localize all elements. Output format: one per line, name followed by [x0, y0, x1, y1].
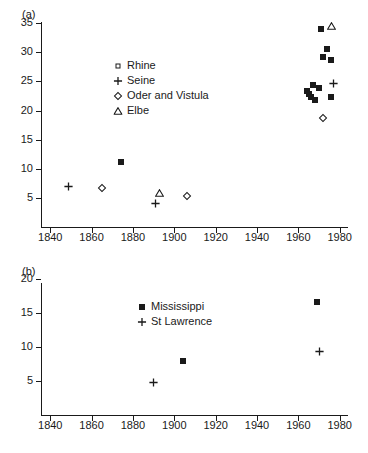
data-point-rhine [310, 82, 316, 88]
plus-marker-legend [114, 76, 123, 85]
x-axis-line [41, 415, 348, 416]
data-point-oder-and-vistula [319, 114, 327, 122]
plus-icon [136, 314, 148, 329]
legend-label: St Lawrence [151, 314, 212, 329]
data-point-rhine [318, 26, 324, 32]
y-tick-label: 15 [2, 133, 33, 145]
data-point-rhine [312, 97, 318, 103]
legend-label: Rhine [127, 58, 156, 73]
x-axis-line [41, 227, 348, 228]
open-diamond-marker-legend [114, 91, 122, 99]
open-diamond-icon [112, 88, 124, 103]
legend-label: Elbe [127, 103, 149, 118]
data-point-seine [64, 182, 73, 191]
filled-square-icon [136, 299, 148, 314]
y-tick-label: 30 [2, 45, 33, 57]
data-point-oder-and-vistula [98, 184, 106, 192]
data-point-rhine [328, 57, 334, 63]
data-point-seine [329, 79, 338, 88]
y-tick-label: 10 [2, 340, 33, 352]
data-point-rhine [328, 94, 334, 100]
y-tick [36, 23, 41, 24]
data-point-rhine [324, 46, 330, 52]
y-tick [36, 140, 41, 141]
data-point-rhine [316, 85, 322, 91]
y-tick [36, 52, 41, 53]
open-square-marker-legend [116, 63, 121, 68]
x-tick-label: 1980 [314, 419, 366, 431]
open-square-icon [112, 58, 124, 73]
y-tick [36, 81, 41, 82]
data-point-oder-and-vistula [182, 191, 190, 199]
data-point-elbe [155, 189, 164, 197]
legend-label: Oder and Vistula [127, 88, 209, 103]
y-tick-label: 10 [2, 162, 33, 174]
y-tick-label: 5 [2, 191, 33, 203]
y-axis-line [41, 22, 42, 228]
data-point-elbe [327, 22, 336, 30]
data-point-mississippi [314, 299, 320, 305]
y-tick [36, 198, 41, 199]
data-point-rhine [118, 159, 124, 165]
data-point-st-lawrence [149, 378, 158, 387]
data-point-rhine [320, 54, 326, 60]
y-tick-label: 35 [2, 16, 33, 28]
y-tick [36, 347, 41, 348]
legend-label: Mississippi [151, 299, 204, 314]
data-point-st-lawrence [315, 347, 324, 356]
y-tick-label: 5 [2, 374, 33, 386]
y-tick [36, 111, 41, 112]
y-tick-label: 20 [2, 104, 33, 116]
y-tick [36, 313, 41, 314]
y-tick [36, 381, 41, 382]
y-tick [36, 279, 41, 280]
panel-b: (b) 510152018401860188019001920194019601… [0, 255, 368, 453]
y-axis-line [41, 283, 42, 416]
y-tick-label: 25 [2, 74, 33, 86]
open-triangle-icon [112, 103, 124, 118]
legend-label: Seine [127, 73, 155, 88]
filled-square-marker-legend [139, 304, 145, 310]
data-point-mississippi [180, 358, 186, 364]
y-tick-label: 20 [2, 272, 33, 284]
plus-icon [112, 73, 124, 88]
y-tick-label: 15 [2, 306, 33, 318]
plus-marker-legend [138, 317, 147, 326]
data-point-seine [151, 199, 160, 208]
x-tick-label: 1980 [314, 231, 366, 243]
panel-a: (a) 510152025303518401860188019001920194… [0, 0, 368, 253]
y-tick [36, 169, 41, 170]
open-triangle-marker-legend [114, 107, 123, 115]
